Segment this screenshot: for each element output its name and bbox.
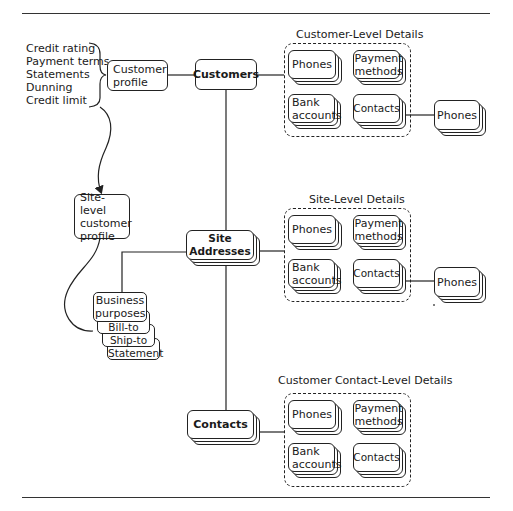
site-level-bank-accounts[interactable]: Bank accounts xyxy=(288,259,343,296)
customer-level-details-title: Customer-Level Details xyxy=(296,28,423,41)
customer-profile-node[interactable]: Customer profile xyxy=(107,60,168,91)
customer-profile-label: Customer profile xyxy=(113,63,163,89)
contacts-label: Contacts xyxy=(353,267,399,280)
site-level-payment-methods[interactable]: Payment methods xyxy=(353,215,408,252)
payment-methods-label: Payment methods xyxy=(355,217,399,243)
customers-label: Customers xyxy=(193,68,259,81)
customers-node[interactable]: Customers xyxy=(195,59,257,90)
payment-methods-label: Payment methods xyxy=(355,52,399,78)
customer-level-payment-methods[interactable]: Payment methods xyxy=(353,50,408,87)
site-level-phones[interactable]: Phones xyxy=(288,215,343,252)
phones-label: Phones xyxy=(437,109,477,122)
profile-attributes-list: Credit rating Payment terms Statements D… xyxy=(26,42,110,107)
site-level-customer-profile-label: Site-level customer profile xyxy=(80,191,128,243)
contacts-label: Contacts xyxy=(193,418,247,431)
attribute-dunning: Dunning xyxy=(26,81,110,94)
statement-label: Statement xyxy=(108,347,163,359)
phones-label: Phones xyxy=(437,276,477,289)
site-addresses-label: Site Addresses xyxy=(187,232,253,258)
bill-to-label: Bill-to xyxy=(108,321,138,333)
customer-level-phones[interactable]: Phones xyxy=(288,50,343,87)
phones-label: Phones xyxy=(292,408,332,421)
payment-methods-label: Payment methods xyxy=(355,402,399,428)
phones-label: Phones xyxy=(292,58,332,71)
contact-level-phones[interactable]: Phones xyxy=(288,400,343,437)
attribute-credit-rating: Credit rating xyxy=(26,42,110,55)
contact-level-bank-accounts[interactable]: Bank accounts xyxy=(288,443,343,480)
contact-level-payment-methods[interactable]: Payment methods xyxy=(353,400,408,437)
contact-level-contacts[interactable]: Contacts xyxy=(353,443,408,480)
customer-level-contact-phones[interactable]: Phones xyxy=(434,100,488,137)
customer-contact-level-details-title: Customer Contact-Level Details xyxy=(278,374,452,387)
attribute-credit-limit: Credit limit xyxy=(26,94,110,107)
customer-level-contacts[interactable]: Contacts xyxy=(353,94,408,131)
site-level-contacts[interactable]: Contacts xyxy=(353,259,408,296)
bank-accounts-label: Bank accounts xyxy=(292,96,336,122)
site-level-contact-phones[interactable]: Phones xyxy=(434,267,488,304)
contacts-label: Contacts xyxy=(353,451,399,464)
ship-to-label: Ship-to xyxy=(110,334,147,346)
site-level-details-title: Site-Level Details xyxy=(309,193,405,206)
site-level-customer-profile-node[interactable]: Site-level customer profile xyxy=(74,194,130,239)
site-addresses-node[interactable]: Site Addresses xyxy=(186,230,262,268)
attribute-statements: Statements xyxy=(26,68,110,81)
contacts-node[interactable]: Contacts xyxy=(187,410,261,446)
customer-level-bank-accounts[interactable]: Bank accounts xyxy=(288,94,343,131)
business-purposes-node[interactable]: Business purposes xyxy=(93,292,147,322)
phones-label: Phones xyxy=(292,223,332,236)
bank-accounts-label: Bank accounts xyxy=(292,445,336,471)
bank-accounts-label: Bank accounts xyxy=(292,261,336,287)
business-purposes-label: Business purposes xyxy=(95,294,145,320)
attribute-payment-terms: Payment terms xyxy=(26,55,110,68)
stray-mark xyxy=(433,304,435,306)
contacts-label: Contacts xyxy=(353,102,399,115)
